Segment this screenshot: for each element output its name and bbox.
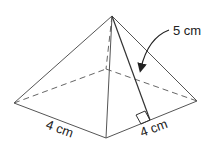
slant-height-line: [112, 16, 150, 120]
base-right-edge-label: 4 cm: [138, 116, 170, 140]
hidden-edge-back-right: [106, 69, 197, 101]
edge-apex-front: [106, 16, 112, 138]
hidden-edges: [14, 16, 197, 103]
slant-height-label: 5 cm: [173, 23, 201, 38]
edge-apex-left: [14, 16, 112, 103]
base-left-edge-label: 4 cm: [44, 117, 76, 141]
pyramid-diagram: 5 cm 4 cm 4 cm: [0, 0, 212, 149]
visible-edges: [14, 16, 197, 138]
hidden-edge-left-back: [14, 69, 106, 103]
